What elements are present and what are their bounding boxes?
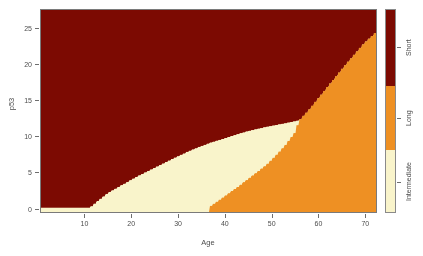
y-tick-mark <box>35 136 39 137</box>
y-tick-label: 20 <box>24 60 32 67</box>
x-tick-mark <box>131 214 132 218</box>
x-tick-label: 40 <box>221 220 229 227</box>
legend-tick <box>397 47 401 48</box>
x-tick-label: 60 <box>315 220 323 227</box>
y-tick-mark <box>35 100 39 101</box>
legend-band-intermediate <box>386 150 395 212</box>
x-tick-label: 20 <box>127 220 135 227</box>
y-tick-label: 25 <box>24 24 32 31</box>
legend-tick <box>397 118 401 119</box>
y-tick-mark <box>35 209 39 210</box>
legend-band-short <box>386 10 395 86</box>
legend-label-short: Short <box>405 39 412 56</box>
x-tick-mark <box>365 214 366 218</box>
y-tick-label: 0 <box>28 205 32 212</box>
y-tick-label: 15 <box>24 97 32 104</box>
x-tick-mark <box>178 214 179 218</box>
x-tick-label: 10 <box>81 220 89 227</box>
legend-label-intermediate: Intermediate <box>405 162 412 201</box>
x-tick-label: 50 <box>268 220 276 227</box>
contour-classification-figure: 102030405060700510152025 p53 Age ShortLo… <box>0 0 423 256</box>
y-axis-title: p53 <box>7 98 16 111</box>
x-tick-mark <box>318 214 319 218</box>
x-tick-mark <box>272 214 273 218</box>
x-tick-mark <box>225 214 226 218</box>
y-tick-mark <box>35 172 39 173</box>
y-tick-label: 5 <box>28 169 32 176</box>
y-tick-mark <box>35 28 39 29</box>
legend-label-long: Long <box>405 110 412 126</box>
decision-region-canvas <box>41 10 376 212</box>
color-key-legend <box>385 9 396 213</box>
x-tick-label: 70 <box>361 220 369 227</box>
plot-panel <box>40 9 377 213</box>
x-axis-title: Age <box>201 238 214 247</box>
y-tick-mark <box>35 64 39 65</box>
x-tick-label: 30 <box>174 220 182 227</box>
x-tick-mark <box>84 214 85 218</box>
legend-band-long <box>386 86 395 150</box>
legend-tick <box>397 182 401 183</box>
y-tick-label: 10 <box>24 133 32 140</box>
